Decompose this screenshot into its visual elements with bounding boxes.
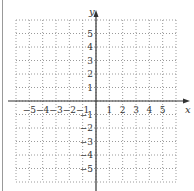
x-tick-label: 5 [160, 105, 166, 115]
y-tick-label: 1 [87, 83, 93, 93]
x-axis-label: x [185, 104, 191, 115]
y-tick-label: 5 [87, 29, 93, 39]
x-tick-label: 2 [120, 105, 126, 115]
y-axis-label: y [88, 6, 95, 17]
x-tick-label: −4 [36, 105, 50, 115]
y-tick-label: −5 [80, 164, 94, 174]
y-tick-label: 2 [87, 69, 93, 79]
x-tick-label: −3 [49, 105, 63, 115]
coordinate-grid: xy−5−4−3−2−11234554321−1−2−3−4−5 [0, 0, 194, 191]
y-tick-label: −4 [80, 150, 94, 160]
y-tick-label: 4 [87, 42, 93, 52]
y-tick-label: −2 [80, 123, 93, 133]
x-tick-label: −2 [63, 105, 76, 115]
y-tick-label: −1 [80, 110, 93, 120]
x-tick-label: −5 [23, 105, 37, 115]
x-tick-label: 3 [133, 105, 139, 115]
x-tick-label: 1 [106, 105, 112, 115]
x-axis-arrow-icon [183, 99, 190, 104]
x-tick-label: 4 [146, 105, 152, 115]
y-tick-label: 3 [87, 56, 93, 66]
y-tick-label: −3 [80, 137, 94, 147]
